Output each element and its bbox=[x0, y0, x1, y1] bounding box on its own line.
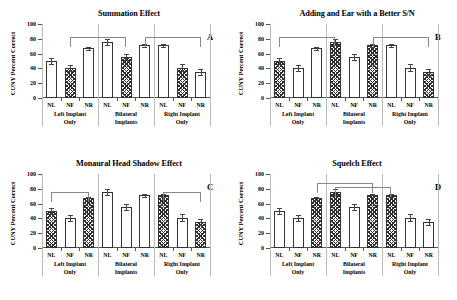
bar bbox=[83, 198, 94, 248]
group-label-line1: Right Implant bbox=[380, 261, 440, 269]
group-label-line1: Left Implant bbox=[40, 111, 100, 119]
significance-bracket bbox=[145, 37, 201, 47]
significance-bracket bbox=[70, 37, 126, 47]
group-label-line1: Bilateral bbox=[96, 111, 156, 119]
error-bar bbox=[182, 64, 183, 71]
y-axis-tick-label: 60 bbox=[258, 51, 264, 57]
error-bar-cap bbox=[352, 204, 357, 205]
x-axis-tick-label: NR bbox=[190, 102, 212, 108]
plot-area: 020406080100NLNFNRNLNFNRNLNFNRLeft Impla… bbox=[42, 24, 210, 98]
bar bbox=[311, 198, 322, 248]
error-bar-cap bbox=[180, 221, 185, 222]
bar bbox=[46, 211, 57, 248]
error-bar-cap bbox=[408, 64, 413, 65]
error-bar-cap bbox=[180, 64, 185, 65]
group-label-line2: Only bbox=[268, 269, 328, 277]
error-bar-cap bbox=[68, 71, 73, 72]
figure-canvas: Summation EffectACUNY Percent Correct020… bbox=[0, 0, 457, 300]
error-bar-cap bbox=[142, 197, 147, 198]
group-label: BilateralImplants bbox=[324, 261, 384, 276]
group-label-line2: Only bbox=[152, 269, 212, 277]
error-bar-cap bbox=[426, 69, 431, 70]
y-axis-tick-label: 100 bbox=[27, 21, 36, 27]
y-axis-tick-label: 80 bbox=[30, 36, 36, 42]
x-axis-tick bbox=[173, 98, 174, 101]
significance-bracket bbox=[373, 37, 429, 47]
y-axis-label: CUNY Percent Correct bbox=[237, 28, 244, 100]
error-bar-cap bbox=[142, 47, 147, 48]
error-bar-cap bbox=[408, 221, 413, 222]
y-axis-tick-label: 100 bbox=[255, 21, 264, 27]
bar bbox=[274, 61, 285, 98]
error-bar-cap bbox=[389, 197, 394, 198]
x-axis-tick bbox=[345, 248, 346, 251]
bar bbox=[121, 57, 132, 98]
group-label: BilateralImplants bbox=[96, 261, 156, 276]
group-label-line2: Only bbox=[40, 269, 100, 277]
error-bar-cap bbox=[86, 47, 91, 48]
bar bbox=[386, 195, 397, 248]
y-axis-tick-label: 80 bbox=[258, 186, 264, 192]
x-axis-tick bbox=[419, 248, 420, 251]
bar bbox=[158, 45, 169, 98]
error-bar-cap bbox=[68, 221, 73, 222]
bar bbox=[349, 57, 360, 98]
error-bar-cap bbox=[277, 214, 282, 215]
group-label-line2: Only bbox=[380, 119, 440, 127]
x-axis-tick bbox=[307, 98, 308, 101]
x-axis-tick bbox=[307, 248, 308, 251]
error-bar-cap bbox=[198, 219, 203, 220]
chart-panel-a: Summation EffectACUNY Percent Correct020… bbox=[0, 0, 228, 150]
error-bar-cap bbox=[180, 71, 185, 72]
group-label: Left ImplantOnly bbox=[40, 111, 100, 126]
x-axis-tick bbox=[363, 248, 364, 251]
error-bar-cap bbox=[408, 214, 413, 215]
group-label: Right ImplantOnly bbox=[152, 261, 212, 276]
group-label-line1: Bilateral bbox=[324, 261, 384, 269]
error-bar-cap bbox=[49, 208, 54, 209]
error-bar-cap bbox=[426, 219, 431, 220]
y-axis-tick-label: 100 bbox=[255, 171, 264, 177]
error-bar-cap bbox=[86, 50, 91, 51]
x-axis-tick bbox=[289, 98, 290, 101]
y-axis-tick-label: 40 bbox=[30, 65, 36, 71]
plot-area: 020406080100NLNFNRNLNFNRNLNFNRLeft Impla… bbox=[42, 174, 210, 248]
x-axis-tick bbox=[135, 248, 136, 251]
panel-title: Monaural Head Shadow Effect bbox=[34, 159, 224, 168]
y-axis-tick-label: 60 bbox=[258, 201, 264, 207]
error-bar-cap bbox=[161, 47, 166, 48]
error-bar bbox=[182, 214, 183, 221]
error-bar-cap bbox=[296, 65, 301, 66]
y-axis-tick-label: 40 bbox=[258, 215, 264, 221]
y-axis-tick-label: 60 bbox=[30, 201, 36, 207]
x-axis-tick bbox=[363, 98, 364, 101]
group-label: Right ImplantOnly bbox=[152, 111, 212, 126]
error-bar-cap bbox=[68, 215, 73, 216]
x-axis-tick bbox=[79, 248, 80, 251]
error-bar-cap bbox=[198, 225, 203, 226]
bar bbox=[367, 45, 378, 98]
bar bbox=[83, 48, 94, 98]
y-axis-label: CUNY Percent Correct bbox=[9, 178, 16, 250]
group-label: BilateralImplants bbox=[96, 111, 156, 126]
error-bar-cap bbox=[142, 194, 147, 195]
plot-area: 020406080100NLNFNRNLNFNRNLNFNRLeft Impla… bbox=[270, 174, 438, 248]
group-label-line1: Right Implant bbox=[152, 261, 212, 269]
group-label-line1: Bilateral bbox=[96, 261, 156, 269]
error-bar-cap bbox=[49, 214, 54, 215]
error-bar-cap bbox=[314, 47, 319, 48]
y-axis-tick-label: 20 bbox=[258, 80, 264, 86]
error-bar-cap bbox=[352, 210, 357, 211]
group-label-line2: Implants bbox=[96, 269, 156, 277]
group-label-line2: Only bbox=[380, 269, 440, 277]
error-bar-cap bbox=[314, 200, 319, 201]
group-label: Left ImplantOnly bbox=[268, 261, 328, 276]
error-bar-cap bbox=[389, 47, 394, 48]
group-label-line1: Left Implant bbox=[268, 111, 328, 119]
bar bbox=[311, 48, 322, 98]
y-axis-tick-label: 0 bbox=[33, 95, 36, 101]
x-axis-tick bbox=[135, 98, 136, 101]
bar bbox=[139, 45, 150, 98]
error-bar-cap bbox=[124, 204, 129, 205]
chart-panel-d: Squelch EffectDCUNY Percent Correct02040… bbox=[228, 150, 456, 300]
